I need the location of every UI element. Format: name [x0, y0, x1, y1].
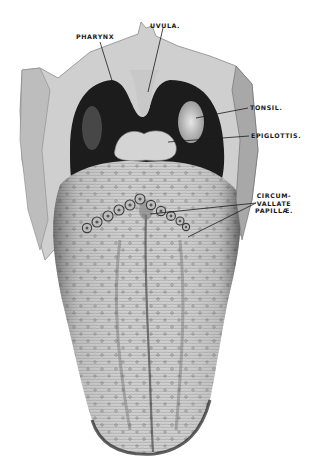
label-uvula: UVULA.: [150, 22, 180, 30]
label-line-3: PAPILLÆ.: [255, 207, 293, 215]
tonsil-left: [82, 106, 102, 150]
label-circumvallate-papillae: CIRCUM- VALLATE PAPILLÆ.: [255, 192, 293, 215]
label-tonsil: TONSIL.: [250, 104, 282, 112]
label-pharynx: PHARYNX: [76, 33, 114, 41]
tongue-illustration: [0, 0, 319, 468]
tonsil: [178, 101, 204, 143]
label-line-2: VALLATE: [255, 200, 293, 208]
label-epiglottis: EPIGLOTTIS.: [251, 132, 301, 140]
epiglottis: [115, 131, 177, 161]
label-line-1: CIRCUM-: [255, 192, 293, 200]
